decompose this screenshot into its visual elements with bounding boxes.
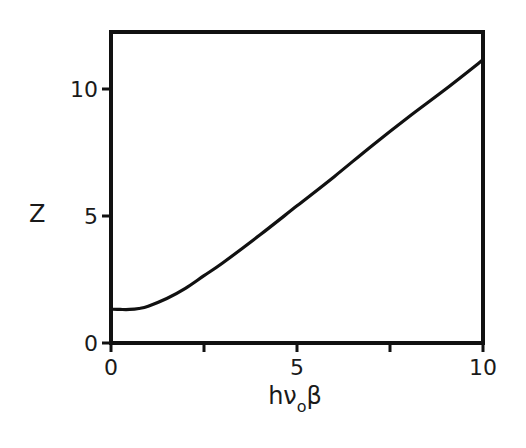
y-tick-label: 0 xyxy=(84,331,98,356)
plot-frame xyxy=(111,32,483,343)
y-tick-label: 10 xyxy=(70,77,98,102)
x-tick-label: 5 xyxy=(290,355,304,380)
axis-ticks xyxy=(102,89,483,352)
x-axis-label-tail: β xyxy=(307,382,322,410)
data-line xyxy=(111,60,483,310)
y-axis-label: Z xyxy=(29,200,45,228)
x-axis-label-sub: o xyxy=(297,397,307,416)
x-axis-label: hνoβ xyxy=(268,382,322,416)
y-tick-label: 5 xyxy=(84,204,98,229)
x-tick-label: 10 xyxy=(469,355,497,380)
chart: 0510 0510 Z hνoβ xyxy=(0,0,526,448)
x-tick-label: 0 xyxy=(104,355,118,380)
y-tick-labels: 0510 xyxy=(70,77,98,356)
x-axis-label-main: hν xyxy=(268,382,297,410)
x-tick-labels: 0510 xyxy=(104,355,497,380)
